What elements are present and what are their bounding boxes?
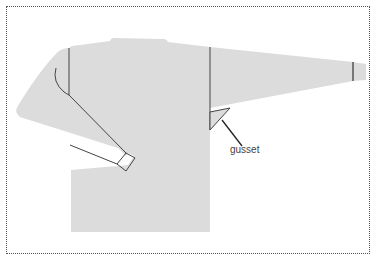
- right-sleeve: [210, 47, 366, 108]
- gusset-label: gusset: [230, 144, 259, 155]
- left-sleeve-bottom: [70, 145, 117, 164]
- gusset-pointer: [222, 120, 242, 146]
- sweater-diagram: [0, 0, 379, 262]
